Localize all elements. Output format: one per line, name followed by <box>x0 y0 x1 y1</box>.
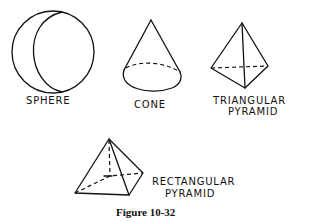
rectangular-pyramid-drawing <box>75 139 143 195</box>
triangular-pyramid-label-line1: TRIANGULAR <box>212 95 286 106</box>
rectangular-pyramid-label-line1: RECTANGULAR <box>152 176 235 187</box>
sphere-label: SPHERE <box>26 95 70 106</box>
cone-label: CONE <box>134 99 166 110</box>
figure-canvas: SPHERE CONE TRIANGULAR PYRAMID RECTANGUL… <box>0 0 316 222</box>
sphere-drawing <box>12 11 94 93</box>
figure-caption: Figure 10-32 <box>116 206 176 218</box>
triangular-pyramid-drawing <box>211 23 268 88</box>
rectangular-pyramid-label-line2: PYRAMID <box>165 188 215 199</box>
cone-drawing <box>123 20 181 91</box>
triangular-pyramid-label-line2: PYRAMID <box>228 106 278 117</box>
